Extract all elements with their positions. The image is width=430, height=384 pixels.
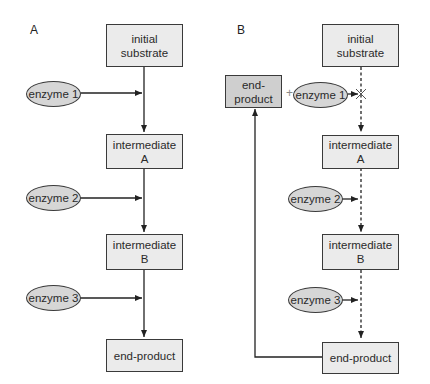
enzyme-1-a: enzyme 1: [26, 81, 81, 107]
box-end-product-b: end-product: [322, 342, 399, 374]
box-intermediate-a-b: intermediate A: [322, 135, 399, 169]
enzyme-2-a: enzyme 2: [26, 185, 81, 211]
enzyme-3-a: enzyme 3: [26, 285, 81, 311]
box-initial-substrate-a: initial substrate: [106, 24, 183, 67]
panel-label-a: A: [30, 23, 38, 37]
box-intermediate-b-b: intermediate B: [322, 234, 399, 270]
box-intermediate-a-a: intermediate A: [106, 134, 183, 169]
panel-label-b: B: [237, 23, 245, 37]
box-end-product-a: end-product: [106, 339, 183, 372]
feedback-arrow: [255, 109, 322, 357]
enzyme-2-b: enzyme 2: [288, 186, 343, 212]
box-initial-substrate-b: initial substrate: [322, 24, 399, 67]
box-end-product-feedback: end- product: [225, 75, 282, 108]
enzyme-1-b: enzyme 1: [293, 82, 348, 108]
plus-sign: +: [286, 86, 293, 100]
box-intermediate-b-a: intermediate B: [106, 234, 183, 270]
enzyme-3-b: enzyme 3: [288, 287, 343, 313]
